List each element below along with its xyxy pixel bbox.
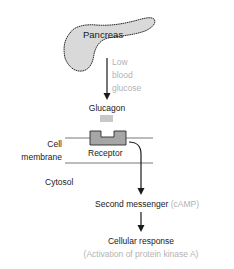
protein-kinase-annotation: (Activation of protein kinase A) (60, 249, 222, 259)
low-blood-glucose-label-line3: glucose (112, 83, 141, 93)
low-blood-glucose-label-line1: Low (112, 57, 128, 67)
glucagon-label: Glucagon (77, 103, 137, 113)
cytosol-label: Cytosol (45, 177, 73, 187)
arrowhead-icon (138, 225, 145, 232)
pancreas-shape (64, 18, 155, 71)
second-messenger-label: Second messenger (cAMP) (95, 199, 199, 209)
receptor-shape (90, 131, 126, 145)
arrowhead-icon (104, 93, 111, 100)
diagram-canvas (0, 0, 234, 269)
camp-annotation: (cAMP) (171, 199, 199, 209)
arrow-receptor-to-second-messenger (129, 142, 141, 189)
second-messenger-text: Second messenger (95, 199, 168, 209)
glucagon-molecule (100, 115, 113, 122)
receptor-label: Receptor (88, 148, 123, 158)
pancreas-label: Pancreas (83, 30, 123, 40)
low-blood-glucose-label-line2: blood (112, 70, 133, 80)
cell-membrane-label-line2: membrane (10, 152, 62, 162)
cellular-response-label: Cellular response (60, 236, 222, 246)
cell-membrane-label-line1: Cell (10, 139, 62, 149)
arrowhead-icon (138, 188, 145, 195)
